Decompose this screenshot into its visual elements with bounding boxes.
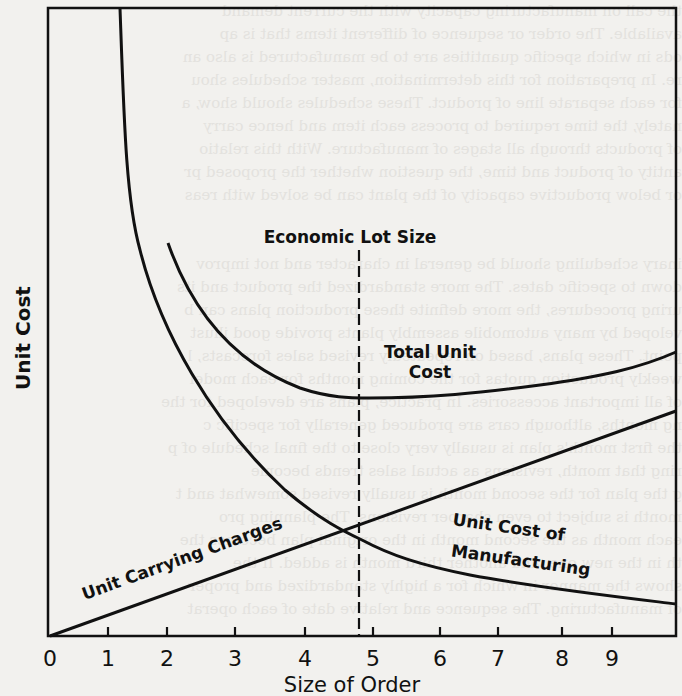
tick-label-6: 6 <box>433 646 447 671</box>
y-axis-title: Unit Cost <box>11 286 35 390</box>
manufacturing-cost-curve <box>120 8 676 604</box>
plot-frame <box>48 8 676 636</box>
tick-label-2: 2 <box>160 646 174 671</box>
tick-label-5: 5 <box>366 646 380 671</box>
carrying-charges-label: Unit Carrying Charges <box>79 513 285 604</box>
carrying-charges-line <box>50 411 676 636</box>
x-axis-title: Size of Order <box>284 673 421 696</box>
tick-label-4: 4 <box>298 646 312 671</box>
tick-label-1: 1 <box>101 646 115 671</box>
x-axis-tick-labels: 0 1 2 3 4 5 6 7 8 9 <box>43 646 619 671</box>
tick-label-9: 9 <box>605 646 619 671</box>
total-unit-cost-label-line1: Total Unit <box>384 342 476 362</box>
total-unit-cost-label-line2: Cost <box>409 362 451 382</box>
tick-label-3: 3 <box>228 646 242 671</box>
tick-label-7: 7 <box>491 646 505 671</box>
tick-label-8: 8 <box>555 646 569 671</box>
chart: 0 1 2 3 4 5 6 7 8 9 Size of Order Unit C… <box>0 0 682 696</box>
manufacturing-label-line1: Unit Cost of <box>451 509 566 545</box>
tick-label-0: 0 <box>43 646 57 671</box>
economic-lot-size-label: Economic Lot Size <box>264 227 437 247</box>
